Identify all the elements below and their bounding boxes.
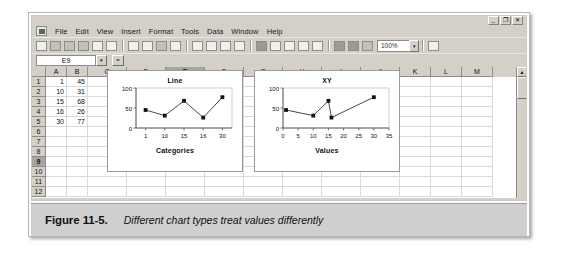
cell-L7[interactable] [431,137,462,147]
cell-I11[interactable] [322,177,361,187]
cell-I12[interactable] [322,187,361,197]
menu-item-format[interactable]: Format [145,26,177,37]
cell-D11[interactable] [127,177,166,187]
print-preview-icon[interactable] [91,40,104,52]
cell-B10[interactable] [67,167,88,177]
autosum-icon[interactable] [269,40,282,52]
row-header-3[interactable]: 3 [32,97,46,107]
cell-L2[interactable] [431,87,462,97]
save-icon[interactable] [63,40,76,52]
cell-K3[interactable] [400,97,431,107]
menu-item-window[interactable]: Window [227,26,262,37]
cell-L5[interactable] [431,117,462,127]
row-header-9[interactable]: 9 [32,157,46,167]
cell-M7[interactable] [462,137,493,147]
cell-K11[interactable] [400,177,431,187]
new-document-icon[interactable] [35,40,48,52]
cell-K12[interactable] [400,187,431,197]
cell-C11[interactable] [88,177,127,187]
menu-item-help[interactable]: Help [263,26,287,37]
row-header-6[interactable]: 6 [32,127,46,137]
column-header-k[interactable]: K [400,67,431,77]
cell-B5[interactable]: 77 [67,117,88,127]
cell-B11[interactable] [67,177,88,187]
cell-A5[interactable]: 30 [46,117,67,127]
scroll-up-button[interactable]: ▲ [517,67,526,77]
cell-K2[interactable] [400,87,431,97]
cell-A6[interactable] [46,127,67,137]
chart-wizard-icon[interactable] [333,40,346,52]
menu-item-file[interactable]: File [51,26,72,37]
print-icon[interactable] [77,40,90,52]
cell-K8[interactable] [400,147,431,157]
copy-icon[interactable] [141,40,154,52]
cell-A3[interactable]: 15 [46,97,67,107]
cell-B7[interactable] [67,137,88,147]
row-header-12[interactable]: 12 [32,187,46,197]
scrollbar-thumb[interactable] [517,77,526,99]
paste-icon[interactable] [155,40,168,52]
name-box-dropdown-icon[interactable]: ▾ [96,55,107,66]
cell-K4[interactable] [400,107,431,117]
cell-H11[interactable] [283,177,322,187]
cell-F12[interactable] [205,187,244,197]
column-header-m[interactable]: M [462,67,493,77]
cell-M11[interactable] [462,177,493,187]
spelling-icon[interactable] [105,40,118,52]
cell-H12[interactable] [283,187,322,197]
cell-M6[interactable] [462,127,493,137]
cell-M4[interactable] [462,107,493,117]
cell-A4[interactable]: 16 [46,107,67,117]
paste-function-icon[interactable] [283,40,296,52]
cell-A8[interactable] [46,147,67,157]
column-header-a[interactable]: A [46,67,67,77]
cell-E11[interactable] [166,177,205,187]
undo-icon[interactable] [191,40,204,52]
cell-D12[interactable] [127,187,166,197]
cell-A1[interactable]: 1 [46,77,67,87]
row-header-10[interactable]: 10 [32,167,46,177]
cut-icon[interactable] [127,40,140,52]
row-header-1[interactable]: 1 [32,77,46,87]
cell-G12[interactable] [244,187,283,197]
row-header-11[interactable]: 11 [32,177,46,187]
cell-M3[interactable] [462,97,493,107]
row-header-7[interactable]: 7 [32,137,46,147]
cell-E12[interactable] [166,187,205,197]
cell-L6[interactable] [431,127,462,137]
menu-item-insert[interactable]: Insert [117,26,144,37]
cell-C12[interactable] [88,187,127,197]
row-header-8[interactable]: 8 [32,147,46,157]
undo-dropdown-icon[interactable] [205,40,218,52]
menu-item-edit[interactable]: Edit [72,26,93,37]
cell-M1[interactable] [462,77,493,87]
cell-B9[interactable] [67,157,88,167]
drawing-icon[interactable] [361,40,374,52]
cell-L4[interactable] [431,107,462,117]
cell-B3[interactable]: 68 [67,97,88,107]
cell-A10[interactable] [46,167,67,177]
cell-B12[interactable] [67,187,88,197]
minimize-button[interactable]: _ [488,16,499,25]
sort-descending-icon[interactable] [311,40,324,52]
cell-A2[interactable]: 10 [46,87,67,97]
row-header-5[interactable]: 5 [32,117,46,127]
zoom-control[interactable]: 100% [377,40,409,52]
edit-formula-button[interactable]: = [112,55,124,66]
open-folder-icon[interactable] [49,40,62,52]
cell-J11[interactable] [361,177,400,187]
close-button[interactable]: ✕ [512,16,523,25]
cell-M12[interactable] [462,187,493,197]
select-all-corner[interactable] [32,67,46,77]
menu-item-data[interactable]: Data [203,26,227,37]
insert-hyperlink-icon[interactable] [255,40,268,52]
cell-K6[interactable] [400,127,431,137]
cell-K10[interactable] [400,167,431,177]
help-icon[interactable] [427,40,440,52]
cell-L8[interactable] [431,147,462,157]
menu-item-view[interactable]: View [93,26,118,37]
cell-A11[interactable] [46,177,67,187]
cell-K7[interactable] [400,137,431,147]
cell-G11[interactable] [244,177,283,187]
redo-dropdown-icon[interactable] [233,40,246,52]
